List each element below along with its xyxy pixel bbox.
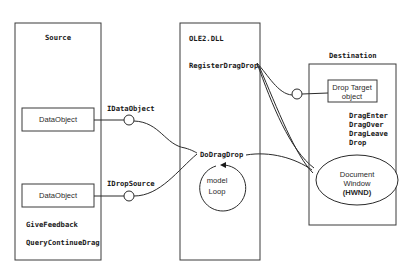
window-label-line1: Document (340, 170, 375, 179)
source-title: Source (45, 33, 72, 42)
data-object-label-1: DataObject (39, 115, 78, 124)
drop-target-label-line2: object (342, 92, 363, 101)
idroptarget-lollipop-icon (292, 89, 302, 99)
curve-register-to-drop-target (257, 63, 292, 95)
data-object-label-2: DataObject (39, 191, 78, 200)
curve-register-to-window-2 (259, 66, 313, 173)
ole-panel: OLE2.DLL RegisterDragDrop DoDragDrop mod… (180, 23, 260, 260)
curve-idataobject-to-dodragdrop (134, 121, 197, 153)
label-idataobject: IDataObject (107, 104, 155, 113)
destination-panel: Destination Drop Target object DragEnter… (309, 51, 398, 225)
ole-box (180, 23, 260, 260)
curve-idropsource-to-dodragdrop (134, 154, 197, 196)
method-drop: Drop (349, 138, 367, 147)
ole-title: OLE2.DLL (189, 34, 224, 43)
label-register-drag-drop: RegisterDragDrop (189, 61, 259, 70)
source-panel: Source DataObject DataObject GiveFeedbac… (15, 23, 101, 260)
method-drag-enter: DragEnter (349, 111, 389, 120)
method-drag-over: DragOver (349, 120, 384, 129)
drag-drop-diagram: Source DataObject DataObject GiveFeedbac… (0, 0, 409, 272)
method-give-feedback: GiveFeedback (26, 220, 79, 229)
drop-target-label-line1: Drop Target (332, 83, 372, 92)
curve-register-to-window-1 (257, 63, 314, 168)
interface-connectors: IDataObject IDropSource (94, 104, 197, 201)
destination-connectors (246, 63, 328, 173)
destination-title: Destination (329, 51, 377, 60)
label-idropsource: IDropSource (107, 179, 155, 188)
connector-line-drop-target (302, 93, 328, 94)
loop-label-line1: model (207, 176, 228, 185)
label-do-drag-drop: DoDragDrop (200, 150, 244, 159)
window-label-line2: Window (343, 179, 371, 188)
loop-label-line2: Loop (209, 187, 226, 196)
idropsource-lollipop-icon (124, 191, 134, 201)
window-label-line3: (HWND) (343, 188, 372, 197)
idataobject-lollipop-icon (124, 115, 134, 125)
method-drag-leave: DragLeave (349, 129, 389, 138)
method-query-continue-drag: QueryContinueDrag (26, 238, 100, 247)
